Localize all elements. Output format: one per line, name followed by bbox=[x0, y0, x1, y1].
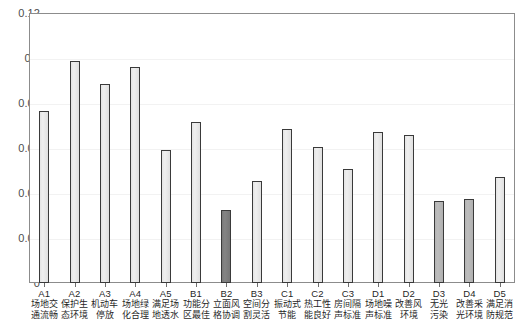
x-tick bbox=[75, 283, 76, 287]
x-axis-description-line: 节能 bbox=[274, 310, 301, 321]
x-axis-description-line: 场地噪 bbox=[365, 299, 392, 310]
x-axis-description: 立面风格协调 bbox=[213, 299, 240, 321]
x-axis-description: 满足消防规范 bbox=[486, 299, 513, 321]
x-axis-code: C2 bbox=[304, 288, 331, 299]
x-axis-code: D1 bbox=[365, 288, 392, 299]
x-tick bbox=[469, 283, 470, 287]
x-axis-label-a2: A2保护生态环境 bbox=[61, 288, 88, 321]
bar-d5 bbox=[495, 177, 505, 283]
x-axis-code: B2 bbox=[213, 288, 240, 299]
x-axis-label-a5: A5满足场地透水 bbox=[152, 288, 179, 321]
x-axis-description-line: 场地交 bbox=[31, 299, 58, 310]
x-axis: A1场地交通流畅A2保护生态环境A3机动车停放A4场地绿化合理A5满足场地透水B… bbox=[29, 283, 515, 330]
x-axis-description-line: 通流畅 bbox=[31, 310, 58, 321]
x-axis-description-line: 机动车 bbox=[91, 299, 118, 310]
bar-chart: 00.020.040.060.080.10.12 A1场地交通流畅A2保护生态环… bbox=[0, 0, 518, 330]
x-axis-description-line: 防规范 bbox=[486, 310, 513, 321]
x-axis-description: 场地交通流畅 bbox=[31, 299, 58, 321]
x-tick bbox=[226, 283, 227, 287]
bar-b1 bbox=[191, 122, 201, 283]
bar-c1 bbox=[282, 129, 292, 283]
x-tick bbox=[378, 283, 379, 287]
x-tick bbox=[439, 283, 440, 287]
x-axis-description: 场地绿化合理 bbox=[122, 299, 149, 321]
x-axis-description-line: 改善风 bbox=[395, 299, 422, 310]
x-axis-description: 热工性能良好 bbox=[304, 299, 331, 321]
bar-c2 bbox=[313, 147, 323, 283]
bar-c3 bbox=[343, 169, 353, 283]
bar-d1 bbox=[373, 132, 383, 283]
x-axis-description: 振动式节能 bbox=[274, 299, 301, 321]
x-axis-description: 功能分区最佳 bbox=[183, 299, 210, 321]
x-tick bbox=[409, 283, 410, 287]
x-axis-label-b3: B3空间分割灵活 bbox=[243, 288, 270, 321]
x-axis-description: 改善风环境 bbox=[395, 299, 422, 321]
x-axis-label-c3: C3房间隔声标准 bbox=[334, 288, 361, 321]
x-axis-description-line: 环境 bbox=[395, 310, 422, 321]
x-axis-description-line: 割灵活 bbox=[243, 310, 270, 321]
x-tick bbox=[500, 283, 501, 287]
bar-a2 bbox=[70, 61, 80, 283]
x-axis-label-c1: C1振动式节能 bbox=[274, 288, 301, 321]
x-axis-code: A1 bbox=[31, 288, 58, 299]
x-axis-description-line: 空间分 bbox=[243, 299, 270, 310]
x-axis-description-line: 改善采 bbox=[456, 299, 483, 310]
x-axis-description: 改善采光环境 bbox=[456, 299, 483, 321]
x-axis-description-line: 振动式 bbox=[274, 299, 301, 310]
x-tick bbox=[287, 283, 288, 287]
x-axis-label-c2: C2热工性能良好 bbox=[304, 288, 331, 321]
x-axis-description-line: 满足场 bbox=[152, 299, 179, 310]
bar-b2 bbox=[221, 210, 231, 283]
x-axis-label-d2: D2改善风环境 bbox=[395, 288, 422, 321]
x-axis-code: C1 bbox=[274, 288, 301, 299]
x-axis-label-d5: D5满足消防规范 bbox=[486, 288, 513, 321]
x-axis-description-line: 立面风 bbox=[213, 299, 240, 310]
x-axis-description-line: 房间隔 bbox=[334, 299, 361, 310]
x-tick bbox=[105, 283, 106, 287]
x-axis-label-a3: A3机动车停放 bbox=[91, 288, 118, 321]
x-axis-code: D4 bbox=[456, 288, 483, 299]
x-axis-label-a1: A1场地交通流畅 bbox=[31, 288, 58, 321]
x-axis-description-line: 满足消 bbox=[486, 299, 513, 310]
bar-b3 bbox=[252, 181, 262, 283]
x-tick bbox=[348, 283, 349, 287]
x-axis-description-line: 声标准 bbox=[365, 310, 392, 321]
x-axis-code: B3 bbox=[243, 288, 270, 299]
x-axis-code: D2 bbox=[395, 288, 422, 299]
x-axis-code: C3 bbox=[334, 288, 361, 299]
x-axis-description-line: 能良好 bbox=[304, 310, 331, 321]
x-tick bbox=[135, 283, 136, 287]
x-axis-description-line: 光环境 bbox=[456, 310, 483, 321]
bar-a1 bbox=[39, 111, 49, 283]
x-tick bbox=[44, 283, 45, 287]
x-axis-label-a4: A4场地绿化合理 bbox=[122, 288, 149, 321]
x-axis-description-line: 化合理 bbox=[122, 310, 149, 321]
x-axis-code: A2 bbox=[61, 288, 88, 299]
x-axis-label-d4: D4改善采光环境 bbox=[456, 288, 483, 321]
x-axis-label-d1: D1场地噪声标准 bbox=[365, 288, 392, 321]
x-axis-code: A5 bbox=[152, 288, 179, 299]
x-axis-description: 房间隔声标准 bbox=[334, 299, 361, 321]
x-axis-description-line: 态环境 bbox=[61, 310, 88, 321]
x-axis-description-line: 功能分 bbox=[183, 299, 210, 310]
x-tick bbox=[166, 283, 167, 287]
x-axis-description: 保护生态环境 bbox=[61, 299, 88, 321]
x-axis-code: D5 bbox=[486, 288, 513, 299]
x-axis-code: D3 bbox=[430, 288, 448, 299]
x-axis-description: 空间分割灵活 bbox=[243, 299, 270, 321]
x-axis-description-line: 污染 bbox=[430, 310, 448, 321]
bar-a3 bbox=[100, 84, 110, 283]
x-axis-code: A4 bbox=[122, 288, 149, 299]
x-axis-description-line: 场地绿 bbox=[122, 299, 149, 310]
bar-a4 bbox=[130, 67, 140, 283]
x-axis-description: 机动车停放 bbox=[91, 299, 118, 321]
x-axis-description: 场地噪声标准 bbox=[365, 299, 392, 321]
x-tick bbox=[196, 283, 197, 287]
x-axis-label-b2: B2立面风格协调 bbox=[213, 288, 240, 321]
x-axis-description-line: 无光 bbox=[430, 299, 448, 310]
x-axis-description-line: 区最佳 bbox=[183, 310, 210, 321]
x-axis-description: 无光污染 bbox=[430, 299, 448, 321]
x-axis-description-line: 地透水 bbox=[152, 310, 179, 321]
x-axis-label-d3: D3无光污染 bbox=[430, 288, 448, 321]
bar-d3 bbox=[434, 201, 444, 283]
